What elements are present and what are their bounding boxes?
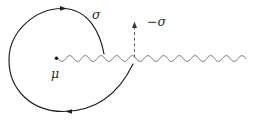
dashed-arrowhead-up-icon: [132, 22, 137, 29]
contour-sigma-path: [9, 8, 133, 111]
contour-arrowhead-bottom-icon: [66, 109, 73, 114]
contour-diagram-svg: σ −σ μ: [0, 0, 258, 124]
contour-arrowhead-top-icon: [60, 6, 67, 11]
sigma-label: σ: [92, 7, 101, 22]
branch-cut-wavy-line: [58, 56, 246, 62]
diagram-canvas: σ −σ μ: [0, 0, 258, 124]
mu-label: μ: [51, 66, 59, 81]
branch-point-dot: [55, 57, 58, 60]
minus-sigma-label: −σ: [147, 14, 166, 29]
